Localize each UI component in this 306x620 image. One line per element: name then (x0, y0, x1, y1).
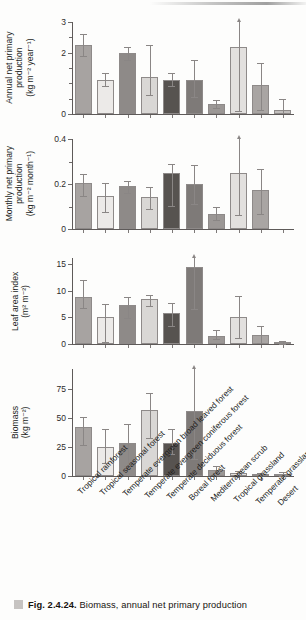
error-bar-cap (257, 326, 264, 327)
error-bar (105, 304, 106, 343)
y-axis-label-line: Annual net primary (4, 18, 14, 118)
y-tick (68, 229, 72, 230)
error-bar-cap (279, 341, 286, 342)
y-axis-label-line: (kg m⁻²) (20, 375, 30, 471)
y-axis-label-line: production (15, 18, 25, 118)
y-axis-line (72, 369, 73, 476)
error-bar-cap (213, 220, 220, 221)
x-tick (283, 115, 284, 118)
y-tick-label: 5 (42, 312, 66, 322)
error-bar-cap (235, 296, 242, 297)
error-bar-cap (279, 99, 286, 100)
x-tick (105, 477, 106, 480)
y-tick-label: 10 (42, 286, 66, 296)
error-bar-cap (168, 206, 175, 207)
y-tick (68, 418, 72, 419)
error-bar-cap (191, 60, 198, 61)
error-bar-cap (102, 429, 109, 430)
caption-marker-icon (14, 600, 23, 609)
error-bar (172, 303, 173, 326)
error-bar-cap (146, 95, 153, 96)
error-bar (105, 183, 106, 212)
error-bar-cap (213, 330, 220, 331)
y-tick-label: 0 (42, 339, 66, 349)
x-tick (216, 230, 217, 233)
y-tick-label: 0 (42, 224, 66, 234)
x-tick (128, 477, 129, 480)
error-bar-cap (124, 193, 131, 194)
error-bar-cap (80, 196, 87, 197)
y-axis-label-line: production (15, 135, 25, 233)
error-bar (216, 207, 217, 220)
y-axis-line (72, 258, 73, 344)
error-bar-cap (146, 209, 153, 210)
caption-text: Biomass, annual net primary production (79, 600, 247, 610)
error-bar-cap (257, 214, 264, 215)
error-bar (83, 417, 84, 445)
x-tick (216, 115, 217, 118)
caption-figure-number: Fig. 2.4.24. (28, 600, 77, 610)
error-bar-arrow-icon (192, 365, 196, 369)
error-bar-cap (124, 60, 131, 61)
x-tick (83, 345, 84, 348)
error-bar (194, 258, 195, 309)
error-bar-cap (146, 45, 153, 46)
plot-area: 00.20.4 (72, 139, 294, 229)
error-bar-cap (124, 424, 131, 425)
error-bar (150, 295, 151, 306)
error-bar-cap (168, 326, 175, 327)
error-bar-cap (191, 165, 198, 166)
figure-caption: Fig. 2.4.24. Biomass, annual net primary… (14, 600, 306, 610)
x-tick (128, 345, 129, 348)
y-tick-label: 50 (42, 413, 66, 423)
error-bar-cap (213, 108, 220, 109)
y-tick-label: 25 (42, 442, 66, 452)
y-axis-label: Monthly net primaryproduction(kg m⁻² mon… (4, 135, 35, 233)
x-tick (194, 230, 195, 233)
error-bar (239, 139, 240, 215)
y-axis-label-line: Monthly net primary (4, 135, 14, 233)
x-tick (216, 345, 217, 348)
error-bar (150, 45, 151, 95)
error-bar (128, 297, 129, 318)
x-tick (194, 345, 195, 348)
y-tick-label: 2 (42, 48, 66, 58)
plot-area: 023 (72, 22, 294, 114)
x-tick (83, 230, 84, 233)
y-tick-minor (69, 99, 72, 100)
y-tick-minor (69, 37, 72, 38)
y-axis-label: Biomass(kg m⁻²) (10, 375, 31, 471)
error-bar-cap (146, 295, 153, 296)
x-tick (261, 115, 262, 118)
y-tick (68, 264, 72, 265)
error-bar-cap (168, 86, 175, 87)
error-bar-cap (80, 417, 87, 418)
y-axis-label: Annual net primaryproduction(kg m⁻² year… (4, 18, 35, 118)
error-bar-cap (102, 342, 109, 343)
y-tick-label: 0.2 (42, 179, 66, 189)
x-tick (261, 230, 262, 233)
y-tick (68, 291, 72, 292)
y-tick-label: 0.4 (42, 134, 66, 144)
error-bar (261, 326, 262, 343)
error-bar-cap (257, 343, 264, 344)
error-bar-cap (102, 212, 109, 213)
error-bar-cap (235, 215, 242, 216)
error-bar-cap (168, 164, 175, 165)
x-tick (105, 345, 106, 348)
error-bar-cap (102, 86, 109, 87)
error-bar-cap (191, 309, 198, 310)
y-axis-label-line: Leaf area index (10, 256, 20, 346)
error-bar (150, 393, 151, 437)
error-bar-cap (235, 111, 242, 112)
error-bar-cap (146, 306, 153, 307)
error-bar (83, 34, 84, 55)
y-tick (68, 317, 72, 318)
error-bar-arrow-icon (237, 18, 241, 22)
y-axis-line (72, 139, 73, 229)
error-bar (261, 169, 262, 214)
error-bar (239, 22, 240, 111)
y-tick-minor (69, 83, 72, 84)
error-bar-cap (102, 73, 109, 74)
error-bar-cap (213, 339, 220, 340)
